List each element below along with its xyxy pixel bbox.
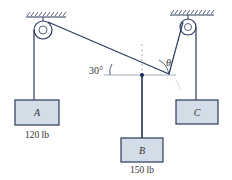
rope-right-diagonal [169, 22, 183, 74]
block-a-weight: 120 lb [25, 130, 49, 140]
pulley-diagram: 30° θ A 120 lb B 150 lb C [0, 0, 232, 180]
left-ceiling [26, 12, 66, 17]
block-b-weight: 150 lb [130, 165, 154, 175]
right-ceiling [170, 10, 214, 15]
block-a-label: A [33, 107, 41, 118]
block-b-label: B [139, 145, 145, 156]
block-a: A [15, 100, 59, 125]
left-pulley [34, 17, 52, 39]
angle-label-right: θ [166, 57, 171, 68]
rope-left-diagonal [48, 22, 169, 74]
block-c: C [176, 100, 218, 124]
faint-tick [176, 80, 181, 90]
block-c-label: C [194, 107, 201, 118]
junction-point [140, 73, 144, 77]
angle-arc-left [110, 64, 112, 75]
block-b: B [121, 138, 163, 162]
angle-label-left: 30° [89, 65, 103, 76]
